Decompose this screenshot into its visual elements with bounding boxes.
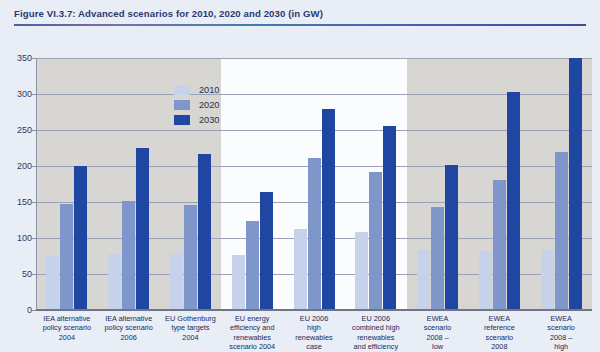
title-divider xyxy=(14,24,586,26)
bar-2010 xyxy=(479,251,492,310)
bar-2020 xyxy=(493,180,506,310)
x-axis-category-label-line: high xyxy=(285,323,343,332)
x-axis-category-label: EWEAscenario2008 –high xyxy=(530,314,592,352)
x-axis-category-label: IEA alternativepolicy scenario2006 xyxy=(98,314,160,352)
x-axis-category-label-line: policy scenario xyxy=(100,323,158,332)
x-axis-category-label-line: EU 2006 xyxy=(285,314,343,323)
bar-group xyxy=(345,58,407,310)
bar-2020 xyxy=(246,221,259,310)
bar-group xyxy=(468,58,530,310)
bar-group-bars xyxy=(345,58,407,310)
bar-2010 xyxy=(417,250,430,310)
x-axis-category-label-line: EU Gothenburg xyxy=(162,314,220,323)
legend-item: 2030 xyxy=(174,112,219,127)
x-axis-category-label-line: scenario xyxy=(409,323,467,332)
plot-area xyxy=(36,58,592,310)
x-axis-category-label-line: combined high xyxy=(347,323,405,332)
bar-2030 xyxy=(322,109,335,310)
bar-group xyxy=(530,58,592,310)
x-axis-category-label-line: scenario xyxy=(470,333,528,342)
x-axis-category-label-line: case xyxy=(285,342,343,351)
legend-item: 2010 xyxy=(174,82,219,97)
bar-group-bars xyxy=(283,58,345,310)
x-axis-category-label-line: renewables xyxy=(285,333,343,342)
y-axis-tick-label: 200 xyxy=(2,161,32,171)
legend-item: 2020 xyxy=(174,97,219,112)
bar-2030 xyxy=(507,92,520,310)
bar-group xyxy=(98,58,160,310)
bar-group-bars xyxy=(98,58,160,310)
bar-2030 xyxy=(383,126,396,310)
bar-group xyxy=(36,58,98,310)
bar-group xyxy=(283,58,345,310)
bar-2020 xyxy=(308,158,321,310)
x-axis-category-label: IEA alternativepolicy scenario2004 xyxy=(36,314,98,352)
x-axis-category-label-line: 2004 xyxy=(38,333,96,342)
bar-2010 xyxy=(232,255,245,310)
bar-group xyxy=(221,58,283,310)
x-axis-category-label-line: high xyxy=(532,342,590,351)
x-axis-category-label-line: renewables xyxy=(347,333,405,342)
bar-2020 xyxy=(60,204,73,310)
x-axis-category-label: EU Gothenburgtype targets2004 xyxy=(160,314,222,352)
y-axis-tick-label: 0 xyxy=(2,305,32,315)
x-axis-category-label: EWEAscenario2008 –low xyxy=(407,314,469,352)
bar-2030 xyxy=(445,165,458,310)
bar-2010 xyxy=(541,250,554,310)
bar-group-bars xyxy=(221,58,283,310)
bar-2010 xyxy=(170,253,183,310)
x-axis-category-label-line: EWEA xyxy=(409,314,467,323)
x-axis-category-label-line: IEA alternative xyxy=(100,314,158,323)
x-axis-category-label: EU 2006highrenewablescase xyxy=(283,314,345,352)
page-title: Figure VI.3.7: Advanced scenarios for 20… xyxy=(14,8,586,19)
bar-groups xyxy=(36,58,592,310)
y-axis-tick-label: 100 xyxy=(2,233,32,243)
x-axis-category-label-line: and efficiency xyxy=(347,342,405,351)
bar-2030 xyxy=(260,192,273,310)
title-block: Figure VI.3.7: Advanced scenarios for 20… xyxy=(14,8,586,26)
bar-chart: 350300250200150100500 201020202030 IEA a… xyxy=(0,34,600,350)
x-axis-category-label-line: EU energy xyxy=(223,314,281,323)
bar-2020 xyxy=(184,205,197,310)
x-axis-category-label-line: policy scenario xyxy=(38,323,96,332)
x-axis-category-label-line: scenario xyxy=(532,323,590,332)
bar-2010 xyxy=(46,256,59,310)
y-axis-tick-label: 300 xyxy=(2,89,32,99)
legend-label: 2030 xyxy=(199,115,219,125)
y-axis-tick-label: 250 xyxy=(2,125,32,135)
x-axis-category-label: EU 2006combined highrenewablesand effici… xyxy=(345,314,407,352)
y-axis-tick-label: 150 xyxy=(2,197,32,207)
bar-group-bars xyxy=(407,58,469,310)
x-axis-category-label-line: 2004 xyxy=(162,333,220,342)
bar-2010 xyxy=(108,254,121,310)
bar-2010 xyxy=(355,232,368,310)
x-axis-category-label-line: EWEA xyxy=(470,314,528,323)
bar-2020 xyxy=(122,201,135,310)
x-axis-category-label: EWEAreferencescenario2008 xyxy=(468,314,530,352)
legend-label: 2010 xyxy=(199,85,219,95)
bar-2030 xyxy=(198,154,211,310)
x-axis-category-label-line: 2008 – xyxy=(409,333,467,342)
x-axis-labels: IEA alternativepolicy scenario2004IEA al… xyxy=(36,314,592,352)
x-axis-category-label: EU energyefficiency andrenewablesscenari… xyxy=(221,314,283,352)
bar-group-bars xyxy=(468,58,530,310)
bar-2010 xyxy=(294,229,307,310)
legend-swatch xyxy=(174,100,190,110)
x-axis-category-label-line: EU 2006 xyxy=(347,314,405,323)
x-axis-category-label-line: efficiency and xyxy=(223,323,281,332)
x-axis-category-label-line: reference xyxy=(470,323,528,332)
bar-2020 xyxy=(431,207,444,310)
y-axis-tick-label: 350 xyxy=(2,53,32,63)
bar-2030 xyxy=(74,166,87,310)
x-axis-category-label-line: EWEA xyxy=(532,314,590,323)
bar-2030 xyxy=(136,148,149,310)
x-axis-category-label-line: low xyxy=(409,342,467,351)
y-axis: 350300250200150100500 xyxy=(0,58,32,310)
bar-2030 xyxy=(569,58,582,310)
x-axis-category-label-line: IEA alternative xyxy=(38,314,96,323)
x-axis-category-label-line: scenario 2004 xyxy=(223,342,281,351)
y-axis-tick-label: 50 xyxy=(2,269,32,279)
bar-2020 xyxy=(369,172,382,310)
x-axis-line xyxy=(36,309,592,310)
bar-group-bars xyxy=(530,58,592,310)
